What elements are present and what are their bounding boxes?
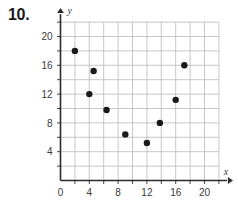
y-tick-label: 16: [41, 60, 53, 71]
scatter-point: [181, 62, 187, 68]
gridlines: [61, 22, 219, 180]
y-tick-label: 20: [41, 31, 53, 42]
scatter-point: [103, 107, 109, 113]
axes: [57, 8, 233, 184]
scatter-point: [86, 91, 92, 97]
scatter-point: [72, 48, 78, 54]
scatter-point: [157, 120, 163, 126]
scatter-plot-figure: 10. 048121620 48121620 xy: [0, 0, 238, 204]
axis-ticks: [57, 22, 219, 184]
x-axis-label: x: [223, 166, 229, 177]
scatter-point: [90, 68, 96, 74]
x-axis-arrowhead: [228, 177, 233, 184]
y-axis-arrowhead: [57, 8, 64, 13]
y-tick-label: 4: [47, 146, 53, 157]
scatter-point: [122, 131, 128, 137]
x-tick-label: 12: [141, 187, 153, 198]
scatter-point: [173, 97, 179, 103]
x-tick-label: 0: [58, 187, 64, 198]
x-tick-label: 4: [87, 187, 93, 198]
x-tick-label: 16: [170, 187, 182, 198]
x-axis-tick-labels: 048121620: [58, 187, 211, 198]
scatter-point: [144, 140, 150, 146]
y-tick-label: 12: [41, 89, 53, 100]
y-axis-tick-labels: 48121620: [41, 31, 53, 157]
y-axis-label: y: [67, 5, 73, 16]
scatter-plot-canvas: 048121620 48121620 xy: [0, 0, 238, 204]
x-tick-label: 20: [199, 187, 211, 198]
y-tick-label: 8: [47, 118, 53, 129]
x-tick-label: 8: [115, 187, 121, 198]
